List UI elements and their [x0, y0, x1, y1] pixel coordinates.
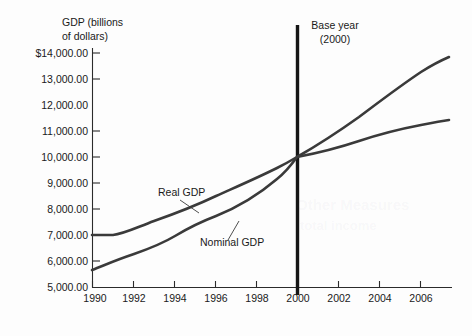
y-tick-label-11000: 11,000.00 — [42, 125, 88, 137]
y-tick-label-10000: 10,000.00 — [41, 151, 88, 163]
gdp-line-chart-figure: Other Measures total income GDP (billion… — [0, 0, 472, 336]
x-tick-label-2006: 2006 — [409, 292, 433, 304]
y-tick-label-6000: 6,000.00 — [47, 255, 88, 267]
y-axis-ticks — [93, 53, 101, 261]
base-year-annotation-line2: (2000) — [320, 33, 350, 45]
y-tick-label-12000: 12,000.00 — [41, 99, 88, 111]
series-label-nominal-gdp: Nominal GDP — [200, 236, 264, 248]
series-line-real-gdp — [92, 120, 449, 235]
series-label-real-gdp: Real GDP — [158, 186, 205, 198]
x-tick-label-1990: 1990 — [83, 292, 107, 304]
x-tick-label-1992: 1992 — [122, 292, 146, 304]
y-tick-label-8000: 8,000.00 — [47, 203, 88, 215]
base-year-annotation-line1: Base year — [311, 19, 359, 31]
x-axis-ticks — [93, 281, 421, 288]
x-tick-label-2004: 2004 — [368, 292, 392, 304]
y-tick-label-5000: 5,000.00 — [47, 281, 88, 293]
series-line-nominal-gdp — [92, 57, 449, 270]
y-tick-label-14000: $14,000.00 — [35, 47, 88, 59]
x-tick-label-2002: 2002 — [327, 292, 351, 304]
y-axis-title-line1: GDP (billions — [62, 16, 123, 28]
y-tick-label-13000: 13,000.00 — [41, 73, 88, 85]
chart-canvas: GDP (billions of dollars) $14,000.00 13,… — [0, 0, 472, 336]
x-tick-label-1996: 1996 — [204, 292, 228, 304]
y-axis-tick-labels: $14,000.00 13,000.00 12,000.00 11,000.00… — [35, 47, 88, 293]
x-axis-tick-labels: 1990 1992 1994 1996 1998 2000 2002 2004 … — [83, 292, 433, 304]
y-tick-label-9000: 9,000.00 — [47, 177, 88, 189]
x-tick-label-1994: 1994 — [163, 292, 187, 304]
y-axis-title-line2: of dollars) — [62, 30, 108, 42]
x-tick-label-1998: 1998 — [245, 292, 269, 304]
y-tick-label-7000: 7,000.00 — [47, 229, 88, 241]
